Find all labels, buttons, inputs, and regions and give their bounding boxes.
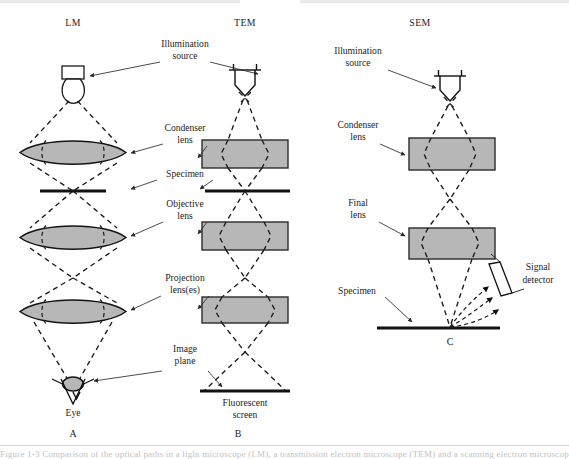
column-header-tem: TEM (234, 17, 256, 28)
sem-ray-right-3 (450, 199, 472, 228)
label-projection-lens-line2: lens(es) (170, 284, 200, 296)
lm-projection-lens (20, 300, 126, 324)
label-condenser-lens-line2: lens (177, 134, 193, 145)
bottom-rule (0, 445, 569, 446)
sem-signal-ray-3 (450, 310, 498, 327)
label-specimen: Specimen (166, 168, 204, 179)
label-sem-illumination-source-line2: source (345, 57, 370, 68)
tem-ray-left-5 (222, 278, 245, 297)
sem-illumination-source (434, 70, 466, 101)
figure-caption-sliver: Figure 1-3 Comparison of the optical pat… (0, 449, 569, 459)
microscope-ray-diagram: LM TEM SEM (0, 0, 569, 459)
lm-ray-left-2 (30, 163, 73, 191)
leader-sem-specimen (385, 297, 412, 322)
lm-eye (52, 377, 94, 404)
panel-letter-b: B (235, 428, 242, 439)
lm-ray-left-4 (30, 248, 73, 278)
sem-ray-right-4 (450, 259, 472, 327)
label-sem-signal-detector-line1: Signal (526, 261, 551, 272)
leader-objective-lens-lm (131, 222, 163, 236)
panel-letter-c: C (447, 336, 454, 347)
tem-ray-right-4 (245, 250, 264, 278)
leader-sem-illumination-source (388, 70, 436, 88)
tem-ray-right-2 (245, 168, 262, 191)
tem-ray-right-5 (245, 278, 268, 297)
label-sem-condenser-lens-line2: lens (350, 131, 366, 142)
label-objective-lens-line2: lens (177, 210, 193, 221)
tem-condenser-lens (202, 140, 288, 168)
panel-letter-a: A (69, 428, 77, 439)
label-sem-final-lens-line2: lens (350, 209, 366, 220)
lm-objective-lens (20, 226, 126, 250)
sem-signal-detector (489, 254, 524, 296)
leader-image-plane-lm (94, 371, 162, 381)
tem-ray-right-1 (247, 100, 262, 140)
lm-ray-right-2 (73, 163, 117, 191)
lm-ray-right-6 (79, 322, 112, 380)
leader-sem-final-lens (379, 222, 405, 236)
label-illumination-source-line1: Illumination (161, 38, 209, 49)
lm-ray-left-3 (30, 191, 73, 228)
sem-ray-right-1 (452, 106, 469, 138)
tem-screen-label-line1: Fluorescent (223, 397, 268, 408)
label-sem-specimen: Specimen (338, 285, 376, 296)
tem-ray-left-7 (205, 352, 245, 390)
tem-ray-left-3 (226, 191, 245, 222)
figure-root: LM TEM SEM (0, 0, 569, 459)
lm-eye-label: Eye (66, 407, 81, 418)
tem-objective-lens (202, 222, 288, 250)
label-objective-lens-line1: Objective (166, 198, 203, 209)
lm-ray-right-3 (73, 191, 117, 228)
leader-illumination-source-lm (90, 62, 160, 76)
label-sem-final-lens-line1: Final (348, 197, 368, 208)
leader-specimen-lm (131, 180, 157, 189)
leader-sem-condenser-lens (380, 144, 405, 155)
leader-illumination-source-tem (210, 62, 258, 74)
lm-ray-left-6 (34, 322, 68, 380)
label-illumination-source-line2: source (172, 50, 197, 61)
label-projection-lens-line1: Projection (165, 272, 205, 283)
sem-condenser-lens (409, 138, 495, 170)
label-image-plane-line1: Image (173, 343, 197, 354)
tem-ray-left-6 (222, 323, 245, 352)
tem-ray-right-7 (245, 352, 285, 390)
label-condenser-lens-line1: Condenser (164, 122, 206, 133)
sem-ray-left-1 (431, 106, 448, 138)
tem-ray-right-6 (245, 323, 268, 352)
column-header-sem: SEM (409, 17, 430, 28)
sem-final-lens (409, 228, 495, 259)
sem-ray-left-2 (431, 170, 450, 199)
label-sem-signal-detector-line2: detector (523, 274, 555, 285)
lm-ray-right-4 (73, 248, 117, 278)
tem-ray-left-2 (228, 168, 245, 191)
column-header-lm: LM (65, 17, 81, 28)
sem-ray-left-4 (428, 259, 450, 327)
tem-illumination-source (229, 64, 261, 96)
leader-condenser-lens-lm (131, 144, 163, 153)
lm-condenser-lens (20, 141, 126, 165)
leader-specimen-tem (200, 180, 213, 189)
label-sem-condenser-lens-line1: Condenser (337, 119, 379, 130)
label-image-plane-line2: plane (175, 355, 196, 366)
lm-ray-right-1 (78, 101, 118, 143)
sem-signal-ray-1 (450, 287, 488, 327)
lm-ray-left-1 (30, 101, 69, 143)
label-sem-illumination-source-line1: Illumination (334, 45, 382, 56)
sem-ray-left-3 (428, 199, 450, 228)
sem-ray-right-2 (450, 170, 469, 199)
lm-illumination-source (62, 66, 84, 103)
tem-projection-lens (202, 297, 288, 323)
tem-ray-left-4 (226, 250, 245, 278)
leader-projection-lens-lm (131, 296, 161, 310)
tem-ray-left-1 (228, 100, 243, 140)
tem-screen-label-line2: screen (233, 409, 258, 420)
tem-ray-right-3 (245, 191, 264, 222)
